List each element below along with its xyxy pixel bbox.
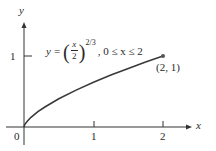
endpoint-marker xyxy=(161,54,165,58)
x-tick-label-1: 1 xyxy=(91,131,97,142)
y-axis-arrow-icon xyxy=(22,22,27,28)
x-axis-label: x xyxy=(196,120,201,131)
equation-equals: = xyxy=(54,45,60,57)
fraction-numerator: x xyxy=(72,40,76,49)
equation-lhs: y xyxy=(46,45,51,57)
x-axis-arrow-icon xyxy=(186,125,192,130)
x-tick-label-2: 2 xyxy=(160,131,166,142)
left-paren: ( xyxy=(63,40,70,62)
equation-domain: , 0 ≤ x ≤ 2 xyxy=(98,45,143,57)
point-label: (2, 1) xyxy=(156,62,180,73)
equation-fraction: x 2 xyxy=(71,40,78,61)
fraction-denominator: 2 xyxy=(72,52,77,61)
equation-label: y = ( x 2 ) 2/3 , 0 ≤ x ≤ 2 xyxy=(46,40,143,61)
equation-exponent: 2/3 xyxy=(85,38,95,47)
y-tick-label-1: 1 xyxy=(10,51,16,62)
right-paren: ) xyxy=(79,40,86,62)
curve-line xyxy=(24,56,163,127)
plot-area xyxy=(0,0,216,151)
y-axis-label: y xyxy=(19,5,24,16)
x-tick-label-0: 0 xyxy=(14,131,20,142)
